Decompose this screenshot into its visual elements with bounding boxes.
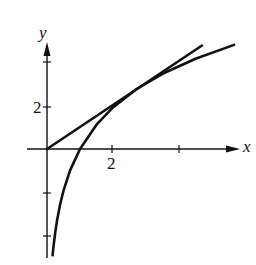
log-curve: [53, 45, 235, 255]
y-axis-label: y: [39, 24, 47, 41]
x-tick-label: 2: [107, 155, 116, 172]
x-axis-label: x: [243, 138, 251, 155]
figure: y x 2 2: [0, 0, 256, 265]
y-axis-arrow-icon: [44, 42, 51, 56]
x-axis: [27, 145, 240, 153]
y-tick-label: 2: [33, 99, 42, 116]
x-axis-arrow-icon: [226, 146, 240, 153]
